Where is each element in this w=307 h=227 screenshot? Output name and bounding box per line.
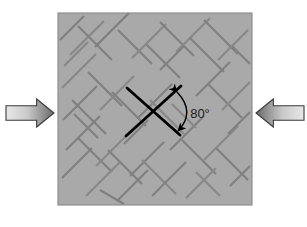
figure-root: 80° [0,0,307,227]
compression-arrow-right-shape [256,99,304,127]
diagram-canvas: 80° [0,0,307,227]
compression-arrow-left [6,99,54,127]
angle-label: 80° [190,106,210,121]
compression-arrow-right [256,99,304,127]
compression-arrow-left-shape [6,99,54,127]
